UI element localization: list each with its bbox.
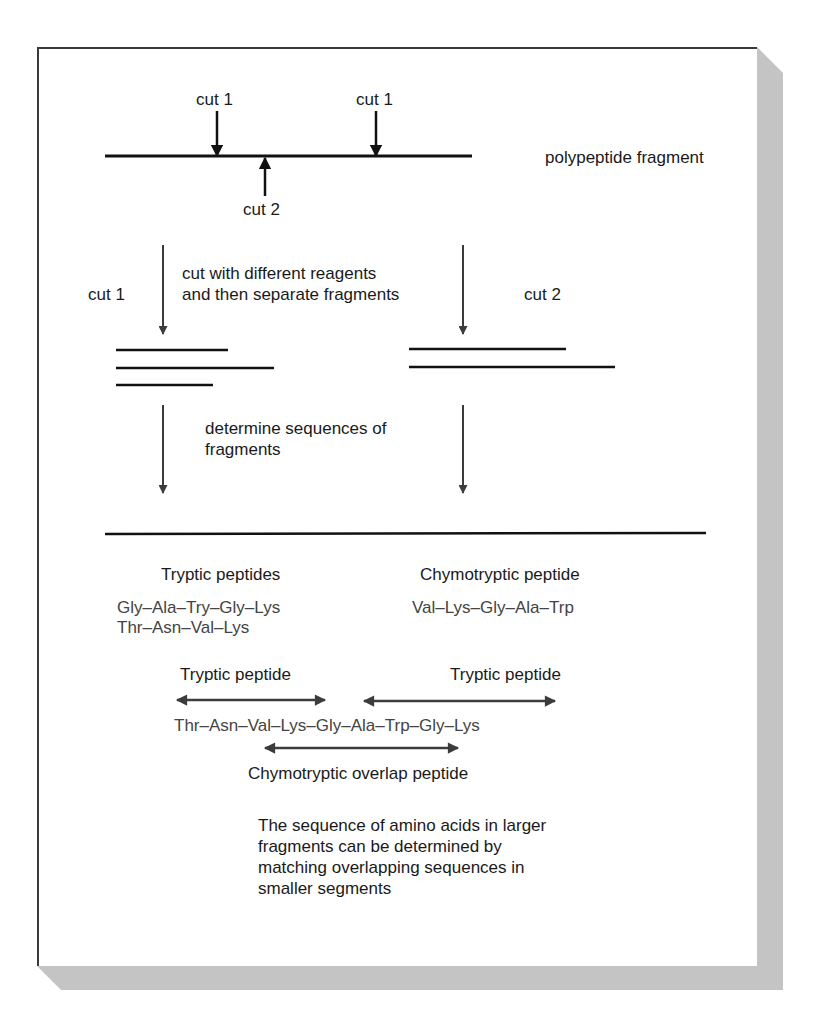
cut2-label: cut 2 xyxy=(243,200,280,220)
split-cut2-label: cut 2 xyxy=(524,285,561,305)
tryptic-peptide-left-label: Tryptic peptide xyxy=(180,665,291,685)
cut1-right-label: cut 1 xyxy=(356,90,393,110)
section-divider xyxy=(105,533,706,534)
tryptic-peptides-heading: Tryptic peptides xyxy=(161,565,280,585)
cut1-left-label: cut 1 xyxy=(196,90,233,110)
chymotryptic-overlap-label: Chymotryptic overlap peptide xyxy=(248,764,468,784)
chymotryptic-sequence: Val–Lys–Gly–Ala–Trp xyxy=(412,598,574,618)
step1-line1: cut with different reagents xyxy=(182,264,376,284)
tryptic-sequence-2: Thr–Asn–Val–Lys xyxy=(117,618,249,638)
tryptic-sequence-1: Gly–Ala–Try–Gly–Lys xyxy=(117,598,280,618)
step1-line2: and then separate fragments xyxy=(182,285,399,305)
step2-line2: fragments xyxy=(205,440,281,460)
overlap-full-sequence: Thr–Asn–Val–Lys–Gly–Ala–Trp–Gly–Lys xyxy=(174,716,480,736)
chymotryptic-peptide-heading: Chymotryptic peptide xyxy=(420,565,580,585)
step2-line1: determine sequences of xyxy=(205,419,386,439)
caption-text: The sequence of amino acids in larger fr… xyxy=(258,815,553,899)
split-cut1-label: cut 1 xyxy=(88,285,125,305)
polypeptide-fragment-label: polypeptide fragment xyxy=(545,148,704,168)
tryptic-peptide-right-label: Tryptic peptide xyxy=(450,665,561,685)
